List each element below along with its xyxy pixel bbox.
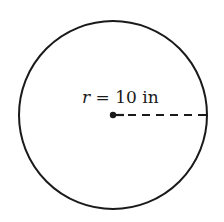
circle-diagram: r = 10 in bbox=[0, 0, 224, 222]
radius-equals: = bbox=[90, 87, 115, 107]
center-dot bbox=[110, 112, 116, 118]
radius-label: r = 10 in bbox=[82, 87, 159, 107]
radius-value: 10 bbox=[115, 87, 137, 107]
radius-unit: in bbox=[137, 87, 159, 107]
